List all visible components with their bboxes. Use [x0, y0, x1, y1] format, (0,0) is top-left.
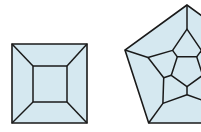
diagram-canvas — [0, 0, 201, 132]
dodecahedron-schlegel-diagram — [125, 5, 201, 123]
dodeca-outer-pentagon — [125, 5, 201, 123]
cube-schlegel-diagram — [12, 44, 87, 123]
